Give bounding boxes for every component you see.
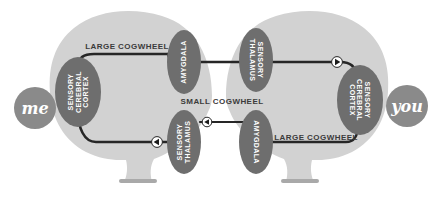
edge-label-large-cogwheel-top: LARGE COGWHEEL <box>85 42 169 51</box>
node-right-thalamus-shape[interactable] <box>239 28 273 92</box>
arrow-right-into-cortex <box>332 57 343 68</box>
edge-label-small-cogwheel: SMALL COGWHEEL <box>180 97 263 106</box>
node-right-amygdala-shape[interactable] <box>239 110 273 174</box>
right-brain-stem-base <box>281 179 319 183</box>
node-left-cortex-shape[interactable] <box>55 57 101 127</box>
edge-label-large-cogwheel-bottom: LARGE COGWHEEL <box>274 133 358 142</box>
arrow-small-cogwheel <box>202 117 212 127</box>
diagram-canvas: me you SENSORY CEREBRAL CORTEX AMYGDALA … <box>0 0 438 204</box>
badge-you-label: you <box>391 97 423 116</box>
node-left-thalamus-shape[interactable] <box>167 110 201 174</box>
left-brain-stem-base <box>119 179 157 183</box>
badge-me-label: me <box>21 99 48 118</box>
arrow-bottom-into-left-thalamus <box>152 137 163 148</box>
node-right-cortex-shape[interactable] <box>337 65 383 135</box>
node-left-amygdala-shape[interactable] <box>167 30 201 94</box>
